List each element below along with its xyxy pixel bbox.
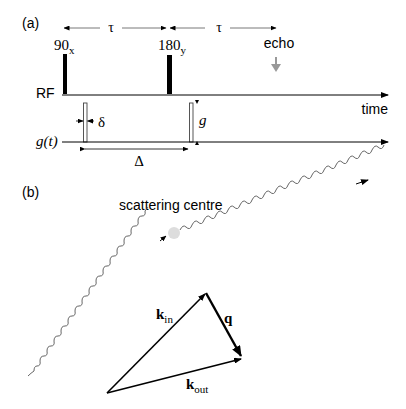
k-out-vector	[107, 359, 241, 393]
incoming-wave	[28, 207, 148, 376]
delta-big-label: Δ	[134, 153, 144, 169]
panel-b: (b) scattering centre kin q kout	[22, 145, 384, 395]
tau-right-label: τ	[216, 20, 222, 35]
gt-label: g(t)	[36, 133, 58, 150]
gradient-pulse-2	[190, 103, 194, 142]
panel-a: (a) τ τ 90x 180y echo RF time	[22, 15, 388, 169]
echo-label: echo	[264, 35, 295, 51]
panel-a-label: (a)	[22, 15, 39, 31]
pulse-90	[63, 54, 67, 94]
tau-left-label: τ	[108, 20, 114, 35]
scattering-centre-label: scattering centre	[119, 197, 223, 213]
outgoing-wave	[180, 145, 384, 230]
scattering-centre-dot	[168, 227, 180, 239]
echo-arrow-icon	[271, 57, 281, 72]
rf-label: RF	[36, 85, 55, 101]
gradient-label: g	[199, 112, 207, 128]
gradient-pulse-1	[84, 103, 88, 142]
k-out-label: kout	[186, 376, 208, 395]
outgoing-wave-arrowhead	[356, 180, 368, 184]
q-label: q	[224, 310, 233, 326]
pulse-180	[167, 55, 172, 94]
time-label: time	[362, 101, 389, 117]
panel-b-label: (b)	[22, 184, 39, 200]
pulse-180-label: 180y	[158, 37, 187, 56]
delta-small-label: δ	[98, 114, 105, 130]
pulse-90-label: 90x	[54, 37, 75, 56]
diagram-canvas: (a) τ τ 90x 180y echo RF time	[0, 0, 406, 409]
incoming-wave-arrowhead	[160, 236, 166, 241]
k-in-label: kin	[156, 306, 173, 325]
